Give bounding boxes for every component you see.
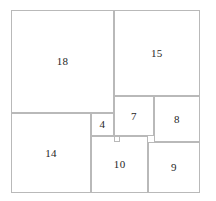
square-label-14: 14 [45, 148, 57, 159]
square-label-8: 8 [174, 113, 180, 124]
square-label-10: 10 [114, 159, 126, 170]
square-label-15: 15 [151, 47, 163, 58]
square-label-7: 7 [131, 110, 137, 121]
squared-square-figure: 181578144109 [0, 0, 216, 201]
square-label-9: 9 [171, 162, 177, 173]
square-label-4: 4 [100, 119, 106, 130]
square-label-18: 18 [57, 56, 69, 67]
